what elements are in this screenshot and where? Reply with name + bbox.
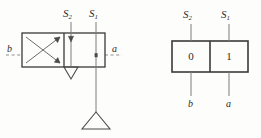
signal-s2-arrowhead bbox=[68, 36, 73, 42]
table-output-b-label: b bbox=[188, 99, 193, 109]
diagram-canvas: S2 S1 b a S2 S1 0 1 b a bbox=[0, 0, 261, 138]
table-output-a-label: a bbox=[226, 99, 231, 109]
exhaust-triangle bbox=[64, 67, 78, 79]
valve-port-a-label: a bbox=[112, 44, 117, 54]
ground-triangle bbox=[82, 112, 110, 129]
signal-s1-junction-dot bbox=[95, 53, 98, 57]
table-signal-s1-label: S1 bbox=[221, 9, 230, 22]
valve-signal-s1-label: S1 bbox=[89, 8, 98, 21]
state-cell-value-1: 1 bbox=[219, 50, 239, 62]
cross-arrowhead-upper bbox=[54, 37, 60, 43]
valve-signal-s2-label: S2 bbox=[63, 8, 72, 21]
state-cell-value-0: 0 bbox=[181, 50, 201, 62]
cross-arrowhead-lower bbox=[54, 58, 60, 63]
valve-port-b-label: b bbox=[7, 44, 12, 54]
table-signal-s2-label: S2 bbox=[183, 9, 192, 22]
